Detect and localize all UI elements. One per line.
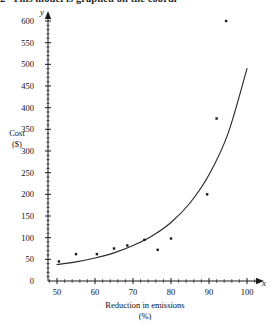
- y-tick-label: 100: [8, 233, 34, 243]
- data-point: [225, 20, 227, 22]
- y-tick-label: 50: [8, 254, 34, 264]
- y-tick-label: 550: [8, 38, 34, 48]
- y-tick-label: 200: [8, 189, 34, 199]
- y-tick-label: 600: [8, 16, 34, 26]
- y-tick-label: 250: [8, 168, 34, 178]
- data-points-group: [58, 20, 228, 263]
- data-point: [96, 253, 98, 255]
- x-tick-label: 100: [235, 287, 259, 297]
- y-tick-label: 150: [8, 211, 34, 221]
- x-tick-label: 70: [121, 287, 145, 297]
- data-point: [58, 260, 60, 262]
- y-tick-label: 350: [8, 124, 34, 134]
- x-axis-title: Reduction in emissions (%): [75, 300, 215, 322]
- data-point: [170, 237, 172, 239]
- data-point: [75, 253, 77, 255]
- x-axis-variable-letter: x: [262, 278, 266, 288]
- data-point: [215, 117, 217, 119]
- fitted-curve-group: [57, 69, 247, 265]
- y-axis-arrowhead: [45, 11, 51, 19]
- data-point: [113, 247, 115, 249]
- y-tick-label: 500: [8, 59, 34, 69]
- y-tick-label: 300: [8, 146, 34, 156]
- data-point: [143, 239, 145, 241]
- x-tick-label: 50: [45, 287, 69, 297]
- data-point: [126, 244, 128, 246]
- data-point: [206, 193, 208, 195]
- x-tick-label: 80: [159, 287, 183, 297]
- data-point: [157, 249, 159, 251]
- y-tick-label: 0: [8, 276, 34, 286]
- y-axis-variable-letter: y: [40, 7, 44, 17]
- scatter-plot-svg: [0, 0, 275, 328]
- figure-page: 2This model is graphed on the coordi Cos…: [0, 0, 275, 328]
- y-tick-label: 450: [8, 81, 34, 91]
- y-tick-label: 400: [8, 103, 34, 113]
- fitted-curve-path: [57, 69, 247, 265]
- x-tick-label: 60: [83, 287, 107, 297]
- x-axis-title-units: (%): [75, 311, 215, 322]
- x-axis-title-label: Reduction in emissions: [75, 300, 215, 311]
- axes-group: [45, 11, 264, 284]
- x-tick-label: 90: [197, 287, 221, 297]
